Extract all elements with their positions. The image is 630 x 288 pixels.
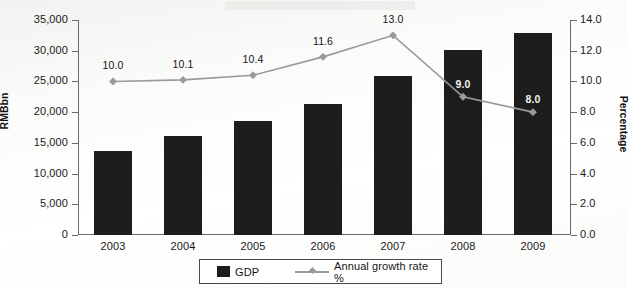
left-axis-tick-label: 25,000 (10, 74, 68, 86)
right-axis-tick (571, 204, 577, 205)
x-tick-label-2005: 2005 (223, 240, 283, 252)
left-axis-tick-label: 20,000 (10, 105, 68, 117)
legend-line-marker-icon (295, 266, 329, 277)
left-axis-tick-label: 30,000 (10, 44, 68, 56)
legend-item-gdp: GDP (217, 260, 259, 283)
chart-legend: GDP Annual growth rate % (199, 259, 442, 284)
right-axis-tick (571, 20, 577, 21)
growth-rate-marker-2006 (319, 53, 327, 61)
growth-rate-line-series (78, 20, 571, 235)
growth-rate-marker-2004 (179, 76, 187, 84)
right-axis-tick-label: 4.0 (580, 167, 630, 179)
x-tick-label-2004: 2004 (153, 240, 213, 252)
right-axis-tick-label: 14.0 (580, 13, 630, 25)
growth-rate-marker-2005 (249, 71, 257, 79)
right-axis-tick-label: 10.0 (580, 74, 630, 86)
right-axis-tick-label: 12.0 (580, 44, 630, 56)
right-axis-tick (571, 174, 577, 175)
right-axis-tick-label: 0.0 (580, 228, 630, 240)
left-axis-tick (72, 235, 78, 236)
legend-item-growth-rate: Annual growth rate % (295, 260, 441, 283)
left-axis-tick-label: 35,000 (10, 13, 68, 25)
data-label-2008: 9.0 (441, 78, 485, 90)
left-axis-title: RMBbn (0, 93, 10, 130)
x-tick-label-2007: 2007 (363, 240, 423, 252)
x-tick-label-2006: 2006 (293, 240, 353, 252)
left-axis-tick-label: 5,000 (10, 197, 68, 209)
right-axis-tick (571, 235, 577, 236)
right-axis-tick (571, 81, 577, 82)
data-label-2006: 11.6 (301, 35, 345, 47)
growth-rate-marker-2009 (529, 108, 537, 116)
data-label-2009: 8.0 (511, 93, 555, 105)
x-tick-label-2003: 2003 (83, 240, 143, 252)
growth-rate-marker-2003 (109, 77, 117, 85)
right-axis-tick (571, 143, 577, 144)
x-tick-label-2009: 2009 (503, 240, 563, 252)
legend-label-gdp: GDP (235, 266, 259, 278)
data-label-2005: 10.4 (231, 53, 275, 65)
legend-label-growth-rate: Annual growth rate % (334, 260, 441, 284)
right-axis-title: Percentage (618, 96, 630, 153)
right-axis-tick (571, 51, 577, 52)
right-axis-tick-label: 2.0 (580, 197, 630, 209)
left-axis-tick-label: 0 (10, 228, 68, 240)
left-axis-tick-label: 15,000 (10, 136, 68, 148)
left-axis-tick-label: 10,000 (10, 167, 68, 179)
data-label-2007: 13.0 (371, 13, 415, 25)
data-label-2004: 10.1 (161, 58, 205, 70)
right-axis-tick (571, 112, 577, 113)
growth-rate-line (113, 35, 533, 112)
data-label-2003: 10.0 (91, 59, 135, 71)
x-tick-label-2008: 2008 (433, 240, 493, 252)
legend-swatch-square-icon (217, 266, 230, 277)
